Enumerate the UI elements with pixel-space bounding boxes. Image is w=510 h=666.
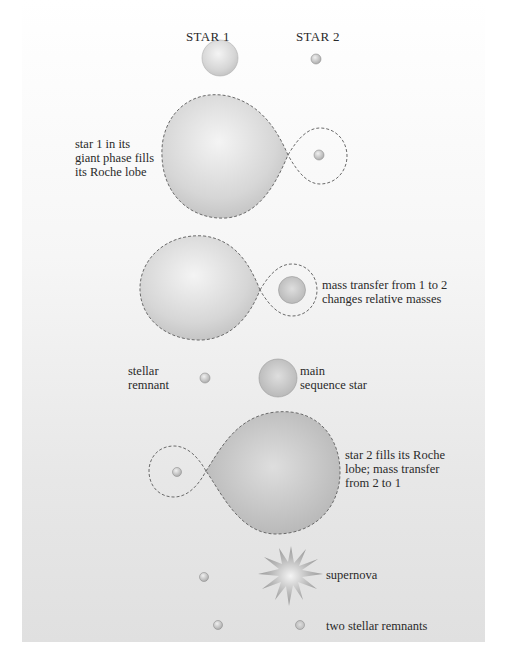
stage-mass-transfer-1-to-2 [140, 236, 317, 340]
main-sequence-star [259, 359, 297, 397]
stage-initial [202, 40, 321, 76]
label-main-sequence-star: main sequence star [300, 364, 367, 392]
label-star2-fills-lobe: star 2 fills its Roche lobe; mass transf… [345, 448, 445, 490]
star1-initial [202, 40, 238, 76]
star2-initial [311, 54, 321, 64]
stage-supernova [200, 546, 324, 606]
header-star1: STAR 1 [186, 29, 230, 45]
stage-after-transfer [200, 359, 297, 397]
binary-star-evolution-diagram [0, 0, 510, 666]
remnant-in-lobe [173, 468, 182, 477]
label-mass-transfer-1-to-2: mass transfer from 1 to 2 changes relati… [322, 278, 447, 306]
star2-growing [279, 277, 306, 304]
star2-giant-phase [314, 150, 324, 160]
label-stellar-remnant: stellar remnant [128, 364, 169, 392]
label-giant-phase: star 1 in its giant phase fills its Roch… [75, 137, 154, 179]
star2-roche-lobe-filled [206, 412, 340, 534]
star1-roche-lobe-filled [162, 95, 288, 218]
stage-star2-fills-lobe [149, 412, 340, 534]
header-star2: STAR 2 [296, 29, 340, 45]
remnant-before-supernova [200, 573, 209, 582]
stage-giant-phase [162, 95, 347, 218]
label-two-stellar-remnants: two stellar remnants [326, 619, 427, 633]
stellar-remnant [200, 373, 210, 383]
stage-final [214, 621, 305, 630]
remnant-2-final [296, 621, 305, 630]
star1-roche-lobe-transfer [140, 236, 260, 340]
remnant-1-final [214, 621, 223, 630]
supernova-burst-icon [258, 546, 323, 606]
label-supernova: supernova [326, 568, 377, 582]
